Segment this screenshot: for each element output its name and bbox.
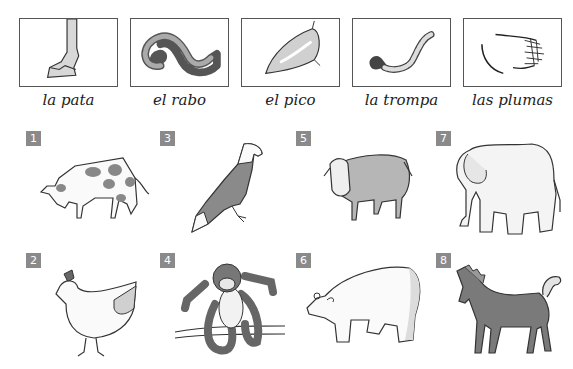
hen-illustration bbox=[50, 264, 140, 358]
number-badge: 3 bbox=[160, 131, 175, 146]
part-label-rabo: el rabo bbox=[124, 91, 235, 109]
part-box-plumas bbox=[463, 18, 562, 87]
beak-icon bbox=[242, 19, 339, 86]
part-label-trompa: la trompa bbox=[346, 91, 457, 109]
sheep-icon bbox=[322, 150, 414, 232]
monkey-illustration bbox=[175, 264, 285, 356]
monkey-icon bbox=[175, 264, 285, 356]
cow-illustration bbox=[35, 148, 150, 230]
polar-bear-icon bbox=[305, 262, 425, 354]
number-badge: 4 bbox=[160, 253, 175, 268]
number-badge: 2 bbox=[26, 253, 41, 268]
number-badge: 8 bbox=[436, 253, 451, 268]
part-box-rabo bbox=[130, 18, 229, 87]
cow-icon bbox=[35, 148, 150, 230]
eagle-illustration bbox=[188, 140, 268, 235]
eagle-icon bbox=[188, 140, 268, 235]
part-box-pico bbox=[241, 18, 340, 87]
number-badge: 7 bbox=[436, 131, 451, 146]
tail-icon bbox=[131, 19, 228, 86]
part-label-pico: el pico bbox=[235, 91, 346, 109]
elephant-illustration bbox=[452, 140, 562, 236]
polar-bear-illustration bbox=[305, 262, 425, 354]
sheep-illustration bbox=[322, 150, 414, 232]
number-badge: 1 bbox=[26, 131, 41, 146]
trunk-icon bbox=[353, 19, 450, 86]
horse-icon bbox=[455, 265, 563, 360]
part-box-pata bbox=[19, 18, 118, 87]
hen-icon bbox=[50, 264, 140, 358]
part-label-plumas: las plumas bbox=[457, 91, 568, 109]
number-badge: 5 bbox=[296, 131, 311, 146]
feathers-icon bbox=[464, 19, 561, 86]
horse-illustration bbox=[455, 265, 563, 360]
part-box-trompa bbox=[352, 18, 451, 87]
part-label-pata: la pata bbox=[13, 91, 124, 109]
elephant-icon bbox=[452, 140, 562, 236]
hoof-icon bbox=[20, 19, 117, 86]
